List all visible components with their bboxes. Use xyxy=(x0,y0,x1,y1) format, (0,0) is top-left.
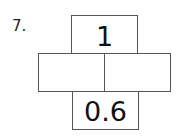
middle-right-box[interactable] xyxy=(104,53,171,92)
bottom-value: 0.6 xyxy=(84,98,127,125)
question-number: 7. xyxy=(12,17,26,35)
top-value: 1 xyxy=(96,23,113,50)
middle-left-box[interactable] xyxy=(38,53,105,92)
top-box: 1 xyxy=(71,15,138,54)
bottom-box: 0.6 xyxy=(72,91,139,130)
